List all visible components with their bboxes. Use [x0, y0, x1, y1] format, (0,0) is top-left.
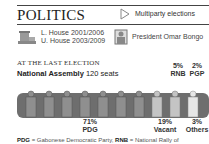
president-portrait-icon	[114, 29, 128, 45]
multiparty-label: Multiparty elections	[135, 10, 195, 17]
footnote: PDG = Gabonese Democratic Party, RNB = N…	[17, 137, 179, 143]
rnb-share: 5% RNB	[168, 62, 188, 78]
house-labels: L. House 2001/2006 U. House 2003/2009	[41, 29, 105, 45]
section-title: POLITICS	[17, 7, 85, 24]
vacant-share: 19% Vacant	[150, 118, 180, 134]
president-label: President Omar Bongo	[132, 33, 203, 40]
election-subtitle: AT THE LAST ELECTION	[17, 59, 100, 67]
bottom-rule	[17, 24, 209, 25]
assembly-label: National Assembly 120 seats	[17, 69, 118, 78]
parliament-building-icon	[17, 29, 37, 45]
lower-house-label: L. House 2001/2006	[41, 29, 105, 37]
pdg-share: 71% PDG	[75, 118, 105, 134]
others-share: 3% Others	[182, 118, 209, 134]
triangle-play-icon	[120, 8, 130, 20]
pgp-share: 2% PGP	[187, 62, 207, 78]
top-rule	[17, 5, 209, 6]
seat-figures-chart	[17, 90, 209, 118]
seat-count: 120 seats	[86, 69, 119, 78]
assembly-name: National Assembly	[17, 69, 84, 78]
upper-house-label: U. House 2003/2009	[41, 37, 105, 45]
